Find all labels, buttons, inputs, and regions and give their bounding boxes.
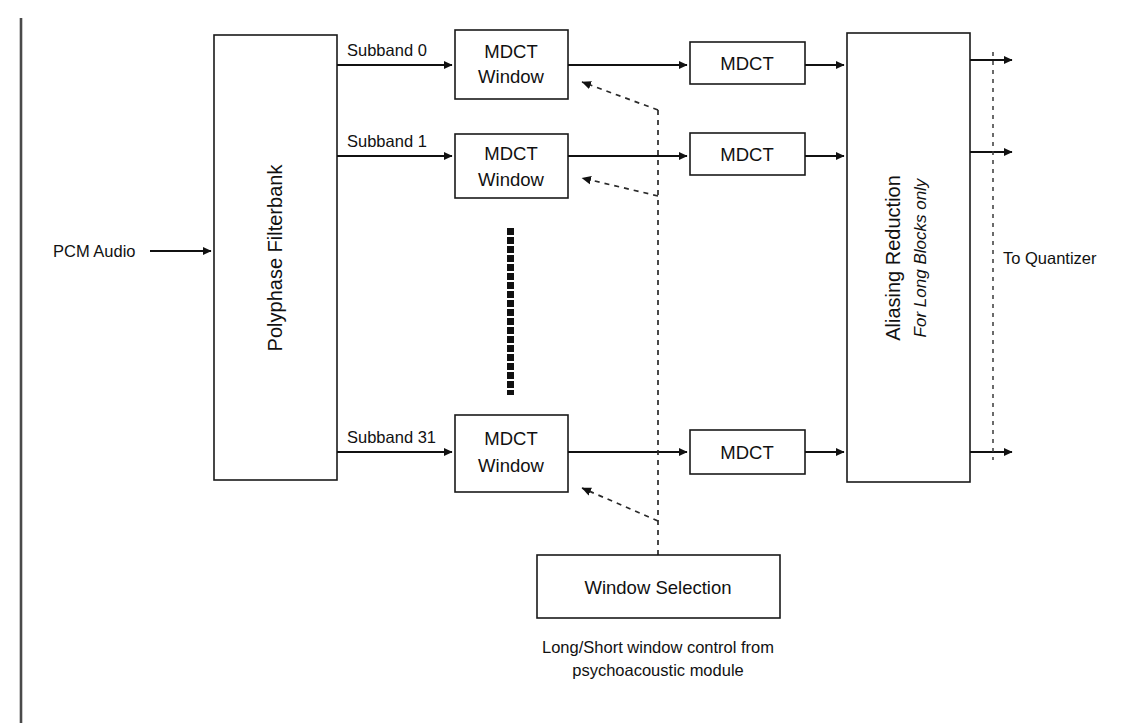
caption-line-1: Long/Short window control from	[542, 638, 774, 656]
window-selection-label: Window Selection	[584, 577, 731, 598]
window-control-arrow-31	[582, 488, 658, 521]
mdct-window-label-1-line1: MDCT	[484, 143, 537, 164]
to-quantizer-label: To Quantizer	[1003, 249, 1097, 267]
mdct-window-label-31-line2: Window	[478, 455, 544, 476]
mdct-window-box-31	[455, 415, 568, 492]
aliasing-reduction-box	[847, 33, 970, 482]
mdct-window-label-31-line1: MDCT	[484, 428, 537, 449]
mdct-window-label-0-line1: MDCT	[484, 41, 537, 62]
diagram-page: PCM Audio Polyphase Filterbank Subband 0…	[0, 0, 1135, 723]
mdct-label-1: MDCT	[720, 144, 773, 165]
signal-flow-diagram: PCM Audio Polyphase Filterbank Subband 0…	[0, 0, 1135, 723]
mdct-window-label-0-line2: Window	[478, 66, 544, 87]
window-control-arrow-1	[582, 178, 658, 196]
subband-0-label: Subband 0	[347, 41, 427, 59]
pcm-audio-label: PCM Audio	[53, 242, 136, 260]
mdct-window-label-1-line2: Window	[478, 169, 544, 190]
aliasing-reduction-label: Aliasing Reduction	[882, 175, 904, 341]
window-control-arrow-0	[582, 82, 658, 110]
caption-line-2: psychoacoustic module	[572, 661, 744, 679]
aliasing-reduction-sublabel: For Long Blocks only	[911, 177, 930, 337]
mdct-label-31: MDCT	[720, 442, 773, 463]
subband-31-label: Subband 31	[347, 428, 436, 446]
mdct-label-0: MDCT	[720, 53, 773, 74]
polyphase-filterbank-label: Polyphase Filterbank	[264, 164, 286, 352]
subband-1-label: Subband 1	[347, 132, 427, 150]
subband-ellipsis-dots	[507, 228, 514, 395]
